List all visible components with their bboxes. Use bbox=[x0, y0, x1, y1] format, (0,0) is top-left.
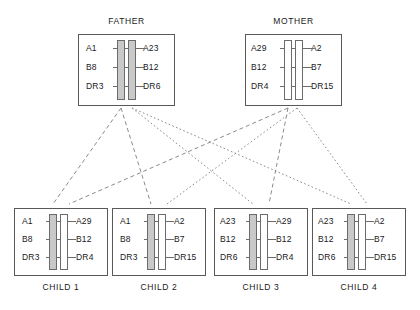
child-1-maternal-allele-2: B12 bbox=[76, 234, 106, 244]
child-3-maternal-allele-3: DR4 bbox=[276, 252, 306, 262]
child-2-maternal-allele-3: DR15 bbox=[174, 252, 204, 262]
child-4-paternal-bar bbox=[347, 214, 355, 270]
link-father-b-to-child-3 bbox=[132, 108, 253, 204]
child-3-label: CHILD 3 bbox=[214, 282, 308, 292]
child-2-maternal-allele-1: A2 bbox=[174, 216, 204, 226]
child-4-maternal-allele-3: DR15 bbox=[374, 252, 404, 262]
child-1-paternal-bar bbox=[49, 214, 57, 270]
child-3-maternal-allele-2: B12 bbox=[276, 234, 306, 244]
link-mother-b-to-child-2 bbox=[167, 108, 297, 204]
child-1-maternal-bar bbox=[60, 214, 68, 270]
haplotype-inheritance-diagram: FATHER A1 B8 DR3 A23 B12 DR6 MOTHER A29 … bbox=[0, 0, 420, 310]
link-father-b-to-child-4 bbox=[132, 108, 351, 204]
child-2-maternal-bar bbox=[158, 214, 166, 270]
link-mother-a-to-child-3 bbox=[269, 108, 288, 204]
child-4-maternal-allele-1: A2 bbox=[374, 216, 404, 226]
child-1-maternal-allele-1: A29 bbox=[76, 216, 106, 226]
child-2-maternal-allele-2: B7 bbox=[174, 234, 204, 244]
link-father-a-to-child-2 bbox=[121, 108, 151, 204]
child-4-maternal-allele-2: B7 bbox=[374, 234, 404, 244]
child-2-paternal-bar bbox=[147, 214, 155, 270]
link-mother-a-to-child-1 bbox=[69, 108, 288, 204]
child-1-label: CHILD 1 bbox=[14, 282, 108, 292]
child-2-label: CHILD 2 bbox=[112, 282, 206, 292]
link-mother-b-to-child-4 bbox=[297, 108, 367, 204]
child-3-maternal-allele-1: A29 bbox=[276, 216, 306, 226]
child-1-maternal-allele-3: DR4 bbox=[76, 252, 106, 262]
child-4-maternal-bar bbox=[358, 214, 366, 270]
child-3-paternal-bar bbox=[249, 214, 257, 270]
child-3-maternal-bar bbox=[260, 214, 268, 270]
link-father-a-to-child-1 bbox=[53, 108, 121, 204]
child-4-label: CHILD 4 bbox=[312, 282, 406, 292]
